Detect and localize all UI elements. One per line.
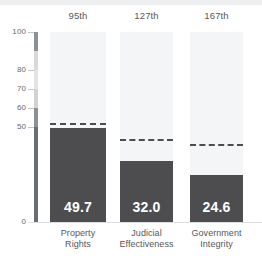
y-axis-scale-segment: [34, 108, 38, 127]
y-axis-tick: [28, 108, 34, 109]
reference-line: [120, 139, 173, 141]
y-axis-tick-label: 50: [4, 123, 26, 131]
category-label-line: Effectiveness: [108, 239, 185, 250]
category-label: JudicialEffectiveness: [108, 228, 185, 249]
y-axis-scale-segment: [34, 89, 38, 108]
category-label-line: Rights: [38, 239, 118, 250]
category-label: GovernmentIntegrity: [178, 228, 255, 249]
category-label-line: Property: [38, 228, 118, 239]
chart-container: 95th127th167th 10080706050049.7PropertyR…: [0, 0, 262, 259]
y-axis-tick-label: 100: [4, 28, 26, 36]
bar-value-label: 49.7: [50, 200, 106, 214]
plot-area: 10080706050049.7PropertyRights32.0Judici…: [0, 0, 262, 259]
y-axis-tick-label: 0: [4, 218, 26, 226]
y-axis-scale-segment: [34, 32, 38, 51]
y-axis-tick-label: 60: [4, 104, 26, 112]
category-label-line: Integrity: [178, 239, 255, 250]
category-label-line: Judicial: [108, 228, 185, 239]
y-axis-tick: [28, 32, 34, 33]
bar-value-label: 32.0: [120, 200, 173, 214]
category-label-line: Government: [178, 228, 255, 239]
y-axis-tick: [28, 89, 34, 90]
reference-line: [50, 123, 106, 125]
y-axis-tick-label: 80: [4, 66, 26, 74]
bar-value-label: 24.6: [190, 200, 243, 214]
y-axis-scale-segment: [34, 127, 38, 222]
reference-line: [190, 144, 243, 146]
category-label: PropertyRights: [38, 228, 118, 249]
y-axis-tick: [28, 127, 34, 128]
x-axis-baseline: [28, 222, 262, 223]
y-axis-tick-label: 70: [4, 85, 26, 93]
y-axis-scale-segment: [34, 51, 38, 70]
y-axis-scale-segment: [34, 70, 38, 89]
y-axis-tick: [28, 70, 34, 71]
